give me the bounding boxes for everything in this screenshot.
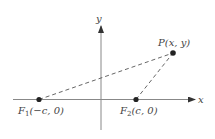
focus-f2-label: F2(c, 0) — [119, 105, 158, 118]
focus-f2-dot — [133, 97, 138, 102]
point-p-coords: (x, y) — [165, 37, 191, 48]
point-p-dot — [170, 50, 176, 56]
point-p-label: P(x, y) — [157, 37, 190, 48]
focus-f1-label: F1(−c, 0) — [17, 105, 64, 118]
focus-f1-dot — [36, 97, 41, 102]
x-axis-label: x — [198, 94, 204, 105]
focus-f2-coords: (c, 0) — [131, 105, 157, 116]
y-axis-label: y — [95, 13, 102, 24]
ellipse-foci-diagram: y x F1(−c, 0) F2(c, 0) P(x, y) — [0, 0, 215, 139]
dashed-line-f2-p — [136, 53, 173, 100]
dashed-line-f1-p — [39, 53, 173, 100]
focus-f1-coords: (−c, 0) — [29, 105, 64, 116]
